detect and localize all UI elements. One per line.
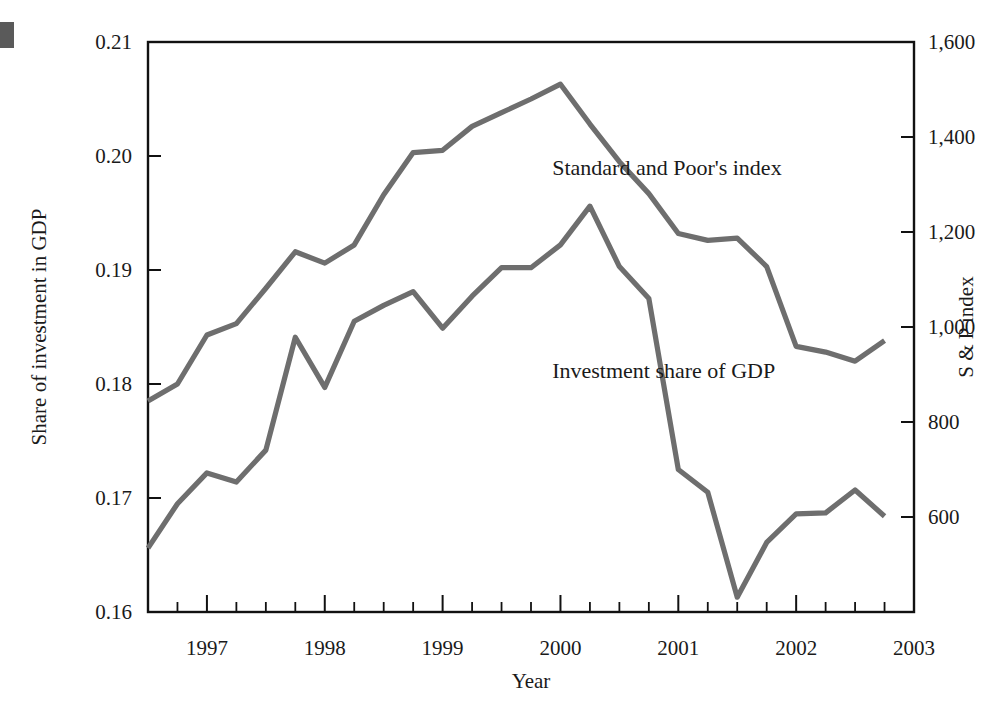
line-chart: 0.160.170.180.190.200.216008001,0001,200… <box>0 0 997 716</box>
y-tick-label-left: 0.21 <box>95 30 132 54</box>
x-tick-label: 1998 <box>304 636 346 660</box>
x-tick-label: 1999 <box>422 636 464 660</box>
chart-tick-labels: 0.160.170.180.190.200.216008001,0001,200… <box>95 30 975 660</box>
y-tick-label-left: 0.16 <box>95 600 132 624</box>
y-tick-label-right: 600 <box>928 505 960 529</box>
y-axis-title-right: S & P index <box>954 276 978 378</box>
series-annotation-investment-share: Investment share of GDP <box>552 358 775 383</box>
y-tick-label-left: 0.18 <box>95 372 132 396</box>
series-annotation-sp-index: Standard and Poor's index <box>552 155 781 180</box>
x-tick-label: 1997 <box>186 636 228 660</box>
x-tick-label: 2000 <box>539 636 581 660</box>
y-tick-label-left: 0.19 <box>95 258 132 282</box>
y-axis-title-left: Share of investment in GDP <box>27 209 51 446</box>
y-tick-label-left: 0.20 <box>95 144 132 168</box>
y-tick-label-right: 1,600 <box>928 30 975 54</box>
y-tick-label-right: 1,400 <box>928 125 975 149</box>
y-tick-label-left: 0.17 <box>95 486 132 510</box>
chart-annotations: Standard and Poor's indexInvestment shar… <box>552 155 781 383</box>
x-tick-label: 2002 <box>775 636 817 660</box>
series-line-sp-index <box>148 84 885 401</box>
chart-axes <box>148 42 914 612</box>
x-tick-label: 2003 <box>893 636 935 660</box>
x-axis-title: Year <box>512 669 551 693</box>
series-line-investment-share <box>148 206 885 597</box>
plot-frame <box>148 42 914 612</box>
y-tick-label-right: 800 <box>928 410 960 434</box>
x-tick-label: 2001 <box>657 636 699 660</box>
figure-root: 0.160.170.180.190.200.216008001,0001,200… <box>0 0 997 716</box>
y-tick-label-right: 1,200 <box>928 220 975 244</box>
